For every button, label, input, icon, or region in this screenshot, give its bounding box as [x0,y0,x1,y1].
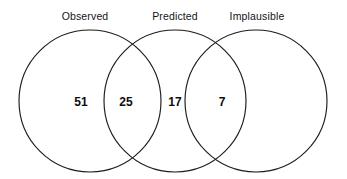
region-count-observed-predicted: 25 [119,96,132,108]
region-count-predicted-implausible: 7 [219,96,226,108]
venn-circles-svg [0,0,347,179]
set-circle-implausible [185,30,327,172]
venn-diagram-figure: Observed Predicted Implausible 51 25 17 … [0,0,347,179]
region-count-observed-only: 51 [74,96,87,108]
region-count-predicted-only: 17 [168,96,181,108]
set-label-observed: Observed [62,11,109,22]
set-label-predicted: Predicted [152,11,198,22]
set-circle-observed [19,30,161,172]
set-label-implausible: Implausible [230,11,285,22]
